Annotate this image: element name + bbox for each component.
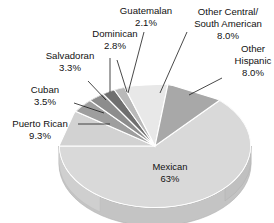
label-mexican-value: 63% xyxy=(161,173,180,184)
label-other-central-south-name-1: Other Central/ xyxy=(198,6,259,17)
label-cuban-name: Cuban xyxy=(31,84,59,95)
leader-line-guatemalan xyxy=(128,32,144,93)
pie-chart-figure: Guatemalan 2.1% Other Central/ South Ame… xyxy=(0,0,274,223)
label-guatemalan-value: 2.1% xyxy=(135,17,157,28)
label-other-central-south-value: 8.0% xyxy=(217,30,239,41)
pie-slices xyxy=(59,84,251,208)
pie-chart-svg: Guatemalan 2.1% Other Central/ South Ame… xyxy=(0,0,274,223)
label-other-hispanic-value: 8.0% xyxy=(242,67,264,78)
label-puerto-rican-value: 9.3% xyxy=(29,130,51,141)
label-dominican-name: Dominican xyxy=(92,28,137,39)
label-other-hispanic-name-2: Hispanic xyxy=(235,55,272,66)
label-guatemalan-name: Guatemalan xyxy=(120,5,172,16)
leader-line-dominican-2 xyxy=(117,60,127,92)
label-dominican-value: 2.8% xyxy=(104,40,126,51)
label-other-hispanic-name-1: Other xyxy=(241,43,266,54)
label-puerto-rican-name: Puerto Rican xyxy=(12,118,67,129)
label-cuban-value: 3.5% xyxy=(34,96,56,107)
leader-line-other-hispanic xyxy=(189,78,222,95)
label-other-central-south-name-2: South American xyxy=(194,18,262,29)
label-salvadoran-name: Salvadoran xyxy=(46,50,95,61)
label-salvadoran-value: 3.3% xyxy=(59,62,81,73)
label-mexican-name: Mexican xyxy=(153,161,188,172)
leader-line-other-central-south xyxy=(160,32,187,93)
